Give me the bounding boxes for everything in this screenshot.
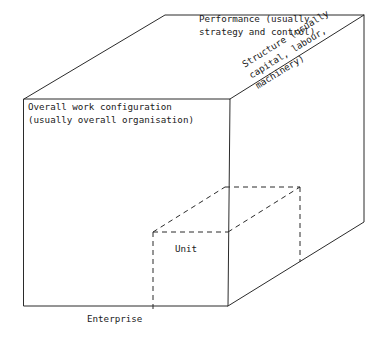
label-unit: Unit — [175, 243, 197, 256]
label-overall-work-configuration: Overall work configuration (usually over… — [28, 101, 194, 126]
outer-front-face-edges — [24, 99, 230, 306]
label-enterprise: Enterprise — [87, 313, 142, 326]
diagram-canvas: Performance (usually strategy and contro… — [0, 0, 387, 337]
inner-top-right-diagonal — [228, 187, 300, 232]
cube-diagram-svg — [0, 0, 387, 337]
inner-top-left-diagonal — [153, 187, 225, 232]
